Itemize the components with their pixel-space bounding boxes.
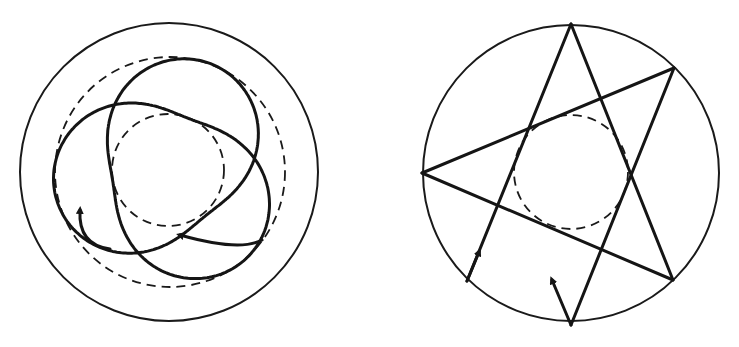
right-arrow-2 bbox=[552, 280, 571, 325]
right-arrow-1 bbox=[467, 252, 479, 281]
left-inner-dashed-circle bbox=[112, 114, 224, 226]
star-edge-5 bbox=[571, 68, 674, 325]
right-inner-dashed-circle bbox=[514, 115, 628, 229]
right-panel bbox=[422, 24, 719, 325]
left-arrow-2 bbox=[180, 235, 262, 245]
star-edge-2 bbox=[467, 24, 571, 281]
left-outer-circle bbox=[20, 23, 318, 321]
left-arrow-1 bbox=[80, 210, 110, 249]
diagram-canvas bbox=[0, 0, 739, 347]
left-panel bbox=[20, 23, 318, 321]
